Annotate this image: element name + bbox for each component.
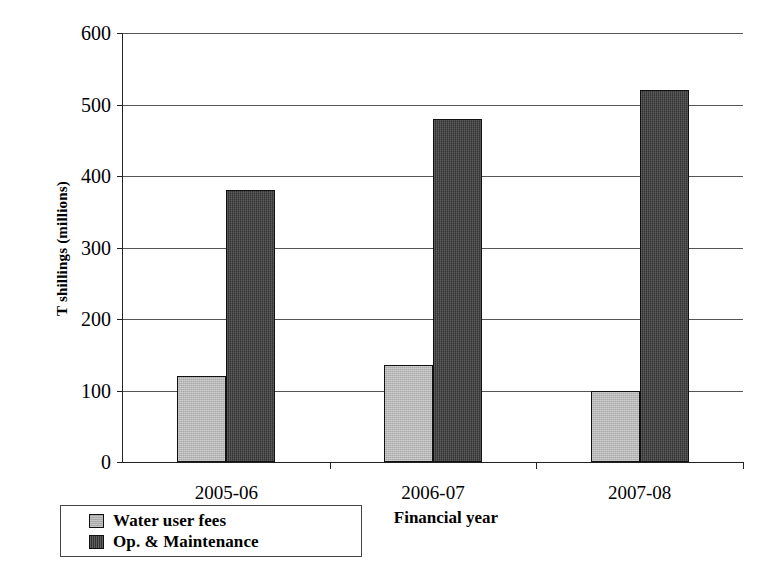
y-axis-tick bbox=[117, 176, 123, 177]
legend-item: Water user fees bbox=[89, 510, 355, 531]
x-axis-tick bbox=[536, 462, 537, 469]
x-axis-tick bbox=[743, 462, 744, 469]
y-axis-tick-label: 300 bbox=[81, 238, 111, 258]
y-axis-tick bbox=[117, 462, 123, 463]
y-axis-tick bbox=[117, 105, 123, 106]
bar-chart-figure: T shillings (millions) 01002003004005006… bbox=[0, 0, 782, 581]
x-axis-tick-label: 2007-08 bbox=[608, 482, 671, 504]
gridline bbox=[123, 33, 743, 34]
legend-item: Op. & Maintenance bbox=[89, 531, 355, 552]
x-axis-tick bbox=[330, 462, 331, 469]
x-axis-tick-label: 2006-07 bbox=[401, 482, 464, 504]
chart-legend: Water user fees Op. & Maintenance bbox=[60, 505, 362, 557]
y-axis-tick bbox=[117, 391, 123, 392]
bar bbox=[177, 376, 226, 462]
y-axis-tick-label: 200 bbox=[81, 309, 111, 329]
legend-label: Op. & Maintenance bbox=[113, 532, 259, 552]
y-axis-tick-label: 400 bbox=[81, 166, 111, 186]
legend-swatch-op-and-maintenance bbox=[89, 535, 104, 549]
bar bbox=[226, 190, 275, 462]
bar bbox=[433, 119, 482, 462]
y-axis-tick-label: 500 bbox=[81, 95, 111, 115]
bar bbox=[640, 90, 689, 462]
y-axis-tick bbox=[117, 319, 123, 320]
y-axis-tick bbox=[117, 33, 123, 34]
y-axis-tick bbox=[117, 248, 123, 249]
legend-label: Water user fees bbox=[113, 511, 226, 531]
y-axis-tick-label: 100 bbox=[81, 381, 111, 401]
bar bbox=[384, 365, 433, 462]
legend-swatch-water-user-fees bbox=[89, 514, 104, 528]
bar bbox=[591, 391, 640, 463]
x-axis-tick-label: 2005-06 bbox=[195, 482, 258, 504]
y-axis-tick-label: 0 bbox=[101, 452, 111, 472]
plot-area: 01002003004005006002005-062006-072007-08 bbox=[122, 33, 743, 463]
y-axis-tick-label: 600 bbox=[81, 23, 111, 43]
y-axis-title: T shillings (millions) bbox=[54, 119, 71, 379]
